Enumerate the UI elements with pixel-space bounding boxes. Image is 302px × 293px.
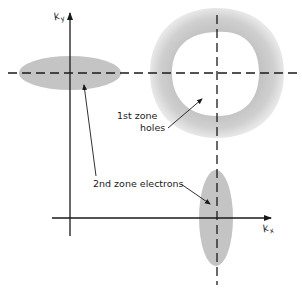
second-zone-leader-left — [84, 85, 96, 176]
first-zone-holes-label-line1: 1st zone — [117, 110, 157, 121]
first-zone-holes-label-line2: holes — [140, 122, 165, 133]
second-zone-electrons-label: 2nd zone electrons — [93, 178, 184, 189]
fermi-surface-diagram — [0, 0, 302, 293]
